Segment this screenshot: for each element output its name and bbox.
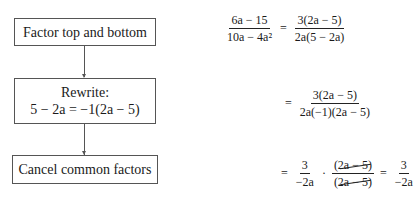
fraction-rhs: 3(2a − 5) 2a(5 − 2a) xyxy=(293,13,346,44)
denominator: 10a − 4a² xyxy=(225,29,274,44)
cancelled-numerator: (2a − 5) xyxy=(332,158,374,174)
cancelled-denominator: (2a − 5) xyxy=(332,174,374,189)
step-box-factor: Factor top and bottom xyxy=(14,18,156,46)
fraction-lhs: 6a − 15 10a − 4a² xyxy=(225,13,274,44)
numerator: 6a − 15 xyxy=(229,13,269,29)
step-label: Rewrite: xyxy=(15,84,155,101)
step-label: Factor top and bottom xyxy=(23,25,147,40)
multiply-dot: · xyxy=(322,166,326,181)
equals-sign: = xyxy=(281,166,288,181)
step-label-equation: 5 − 2a = −1(2a − 5) xyxy=(15,101,155,118)
equals-sign: = xyxy=(280,21,287,36)
denominator: 2a(−1)(2a − 5) xyxy=(298,104,372,119)
equation-step2: = 3(2a − 5) 2a(−1)(2a − 5) xyxy=(282,88,375,119)
numerator: 3(2a − 5) xyxy=(295,13,343,29)
numerator: 3 xyxy=(300,158,310,174)
denominator: −2a xyxy=(393,174,415,189)
equals-sign: = xyxy=(285,96,292,111)
equals-sign: = xyxy=(380,166,387,181)
numerator: 3 xyxy=(399,158,409,174)
fraction-result: 3 −2a xyxy=(393,158,415,189)
connector-line xyxy=(84,46,85,77)
numerator: 3(2a − 5) xyxy=(311,88,359,104)
equation-step3: = 3 −2a · (2a − 5) (2a − 5) = 3 −2a xyxy=(278,158,418,189)
denominator: 2a(5 − 2a) xyxy=(293,29,346,44)
fraction-1: 3 −2a xyxy=(294,158,316,189)
step-box-rewrite: Rewrite: 5 − 2a = −1(2a − 5) xyxy=(14,78,156,124)
denominator: −2a xyxy=(294,174,316,189)
step-label: Cancel common factors xyxy=(19,162,152,177)
fraction: 3(2a − 5) 2a(−1)(2a − 5) xyxy=(298,88,372,119)
equation-step1: 6a − 15 10a − 4a² = 3(2a − 5) 2a(5 − 2a) xyxy=(222,13,349,44)
fraction-cancelled: (2a − 5) (2a − 5) xyxy=(332,158,374,189)
step-box-cancel: Cancel common factors xyxy=(12,155,158,184)
